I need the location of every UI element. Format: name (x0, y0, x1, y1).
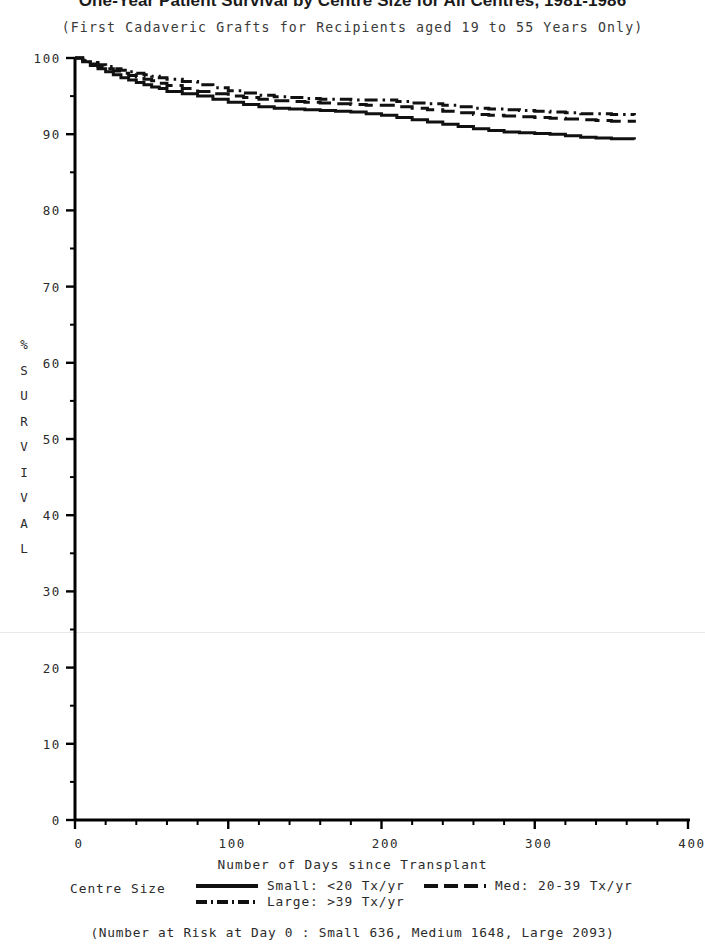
y-tick-label: 30 (0, 584, 61, 599)
legend-swatch-solid-icon (196, 880, 258, 892)
x-tick-label: 100 (219, 836, 246, 851)
legend-label-med: Med: 20-39 Tx/yr (495, 878, 633, 893)
x-tick-label: 300 (525, 836, 552, 851)
at-risk-footnote: (Number at Risk at Day 0 : Small 636, Me… (0, 925, 705, 940)
y-tick-label: 80 (0, 203, 61, 218)
legend-swatch-dashed-icon (424, 880, 486, 892)
curve-solid (75, 58, 634, 140)
y-axis-label-letter: V (16, 434, 32, 460)
legend-item-small[interactable]: Small: <20 Tx/yr (196, 878, 405, 893)
y-axis-label: %SURVIVAL (16, 332, 32, 562)
legend-swatch-dashdot-icon (196, 896, 258, 908)
x-tick-label: 200 (372, 836, 399, 851)
y-axis-label-letter: A (16, 511, 32, 537)
y-tick-label: 70 (0, 279, 61, 294)
chart-legend: Centre Size Small: <20 Tx/yr Med: 20-39 … (0, 878, 705, 916)
y-axis-label-letter: V (16, 485, 32, 511)
y-tick-label: 100 (0, 51, 61, 66)
legend-item-med[interactable]: Med: 20-39 Tx/yr (424, 878, 633, 893)
legend-item-large[interactable]: Large: >39 Tx/yr (196, 894, 405, 909)
y-axis-label-letter: L (16, 536, 32, 562)
chart-page: One-Year Patient Survival by Centre Size… (0, 0, 705, 945)
y-axis-label-letter: U (16, 383, 32, 409)
y-tick-label: 90 (0, 127, 61, 142)
y-axis-label-letter: % (16, 332, 32, 358)
y-axis-label-letter: S (16, 358, 32, 384)
legend-title: Centre Size (70, 881, 166, 896)
y-tick-label: 20 (0, 660, 61, 675)
x-tick-label: 400 (678, 836, 705, 851)
y-tick-label: 0 (0, 813, 61, 828)
x-axis-label: Number of Days since Transplant (0, 857, 705, 872)
x-tick-label: 0 (74, 836, 83, 851)
y-tick-label: 10 (0, 736, 61, 751)
legend-label-large: Large: >39 Tx/yr (267, 894, 405, 909)
legend-label-small: Small: <20 Tx/yr (267, 878, 405, 893)
y-axis-label-letter: R (16, 409, 32, 435)
y-axis-label-letter: I (16, 460, 32, 486)
survival-curves (0, 0, 705, 945)
